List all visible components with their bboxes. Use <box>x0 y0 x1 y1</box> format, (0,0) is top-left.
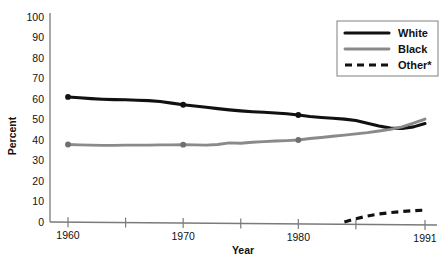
y-tick-40: 40 <box>32 134 44 146</box>
y-tick-70: 70 <box>32 72 44 84</box>
legend-label-other: Other* <box>398 59 432 71</box>
x-axis-title: Year <box>232 244 254 256</box>
chart-canvas: 0102030405060708090100 1960197019801991 … <box>0 0 444 264</box>
line-chart: 0102030405060708090100 1960197019801991 … <box>0 0 444 264</box>
series-line-white <box>68 97 425 129</box>
y-tick-100: 100 <box>26 11 44 23</box>
chart-legend: White Black Other* <box>337 21 438 76</box>
x-axis-tick-labels: 1960197019801991 <box>56 229 437 244</box>
y-axis-tick-labels: 0102030405060708090100 <box>26 11 44 228</box>
x-tick-1970: 1970 <box>171 230 195 242</box>
data-point-markers <box>65 94 301 148</box>
y-tick-60: 60 <box>32 93 44 105</box>
y-tick-0: 0 <box>38 216 44 228</box>
y-tick-30: 30 <box>32 154 44 166</box>
y-tick-50: 50 <box>32 113 44 125</box>
legend-label-black: Black <box>398 43 428 55</box>
y-tick-90: 90 <box>32 31 44 43</box>
data-point-white-1960 <box>65 94 71 100</box>
y-tick-80: 80 <box>32 52 44 64</box>
y-axis-title: Percent <box>6 116 18 155</box>
data-point-black-1980 <box>295 137 301 143</box>
x-axis-line <box>50 222 437 225</box>
y-tick-20: 20 <box>32 175 44 187</box>
series-line-other <box>344 210 425 222</box>
x-tick-1960: 1960 <box>56 229 80 241</box>
data-series-group <box>68 97 425 222</box>
data-point-white-1980 <box>295 112 301 118</box>
legend-label-white: White <box>398 27 428 39</box>
data-point-white-1970 <box>180 102 186 108</box>
data-point-black-1970 <box>180 142 186 148</box>
y-tick-10: 10 <box>32 195 44 207</box>
data-point-black-1960 <box>65 142 71 148</box>
x-tick-1980: 1980 <box>287 231 311 243</box>
x-tick-1991: 1991 <box>413 232 437 244</box>
